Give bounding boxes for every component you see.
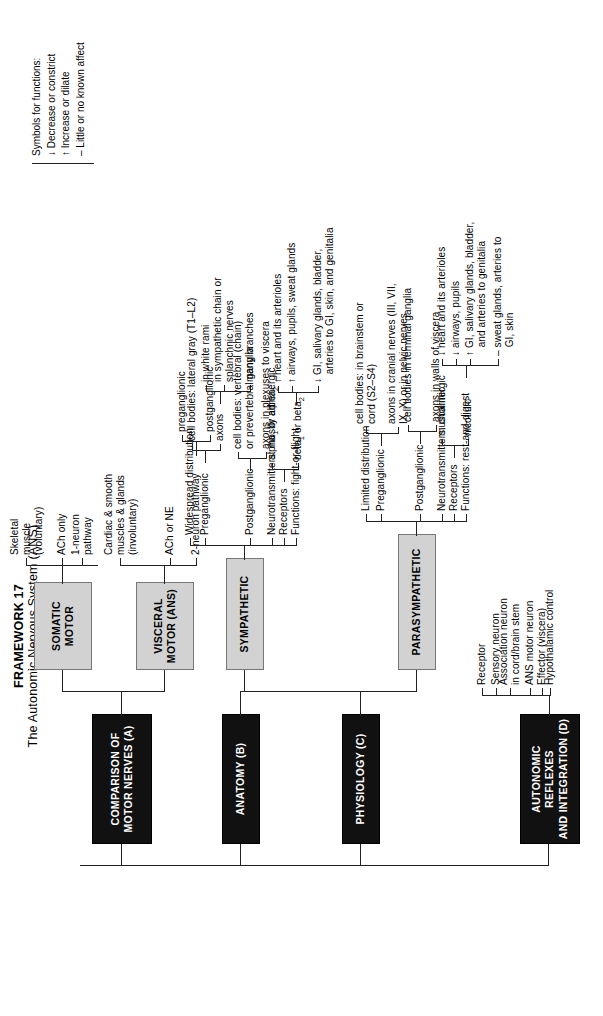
section-physiology[interactable]: PHYSIOLOGY (C) (342, 714, 380, 844)
section-anatomy-label: ANATOMY (B) (234, 743, 247, 816)
para-item-3: Postganglionic (414, 445, 426, 511)
symp-tick-6 (296, 538, 297, 546)
symp-item-2: Preganglionic (199, 473, 211, 535)
symp-item-6: Functions: fight-or-flight (290, 428, 302, 535)
somatic-item-2: ACh only (56, 514, 68, 555)
reflex-tick-6 (550, 688, 551, 696)
para-preg-tick-a (366, 427, 367, 434)
somatic-out-line (62, 566, 63, 584)
box-sympathetic-label: SYMPATHETIC (238, 576, 251, 653)
comparison-branch-visceral (164, 670, 165, 692)
box-parasympathetic[interactable]: PARASYMPATHETIC (398, 534, 436, 670)
somatic-tick-2 (62, 558, 63, 566)
legend: Symbols for functions: ↓ Decrease or con… (30, 42, 88, 156)
section-autonomic-reflexes[interactable]: AUTONOMIC REFLEXES AND INTEGRATION (D) (520, 714, 580, 844)
para-postg-spine (408, 431, 436, 432)
box-somatic-motor-label: SOMATIC MOTOR (50, 601, 76, 651)
symp-preg-spine (192, 450, 220, 451)
reflex-tick-3 (510, 688, 511, 696)
legend-item-decrease: ↓ Decrease or constrict (45, 42, 60, 156)
symp-tick-3 (250, 538, 251, 546)
symp-tick-4 (272, 538, 273, 546)
para-recept-line (454, 446, 455, 458)
symp-postg-line (250, 459, 251, 471)
somatic-tick-3 (82, 558, 83, 566)
symp-recept-line (284, 470, 285, 482)
symp-para-vertical (244, 691, 416, 692)
symp-tick-5 (284, 538, 285, 546)
para-fn-tick-1 (442, 359, 443, 366)
symp-item-5a: alpha1 or alpha2 (266, 387, 280, 460)
symp-fn-tick-3 (318, 386, 319, 393)
box-sympathetic[interactable]: SYMPATHETIC (226, 558, 264, 670)
para-item-5a: muscarinic (436, 387, 448, 436)
para-postg-tick-a (408, 425, 409, 432)
branch-sympathetic (244, 670, 245, 692)
legend-item-little: – Little or no known affect (74, 42, 89, 156)
spine-stub-physiology (360, 844, 361, 866)
physiology-out-line (360, 692, 361, 716)
para-item-6c: ↑ GI, salivary glands, bladder, and arte… (464, 222, 488, 356)
somatic-item-1: Skeletal muscle (voluntary) (9, 507, 46, 555)
para-tick-4 (442, 514, 443, 522)
symp-item-6a: ↑ heart and its arterioles (272, 274, 284, 383)
section-reflexes-label: AUTONOMIC REFLEXES AND INTEGRATION (D) (530, 715, 569, 843)
para-tick-6 (466, 514, 467, 522)
spine-stub-comparison (121, 844, 122, 866)
para-fn-tick-4 (498, 359, 499, 366)
symp-tick-2 (205, 538, 206, 546)
para-item-6d: – sweat glands, arteries to GI, skin (492, 237, 516, 356)
para-tick-1 (366, 514, 367, 522)
box-visceral-motor[interactable]: VISCERAL MOTOR (ANS) (136, 582, 194, 670)
symp-item-3a: cell bodies: vertebral (chain) or prever… (232, 321, 256, 449)
para-preg-tick-b (398, 427, 399, 434)
para-item-1: Limited distribution (360, 426, 372, 511)
para-recept-tick-a (442, 439, 443, 446)
diagram-page: FRAMEWORK 17 The Autonomic Nervous Syste… (0, 0, 603, 1016)
section-anatomy[interactable]: ANATOMY (B) (222, 714, 260, 844)
para-fn-line (466, 366, 467, 378)
comparison-branch-vertical (62, 691, 164, 692)
anatomy-out-line (240, 692, 241, 716)
symp-fn-spine (278, 392, 318, 393)
symp-item-1: Widespread distribution (184, 428, 196, 535)
symp-fn-tick-2 (292, 386, 293, 393)
visceral-sub-tick-2 (210, 435, 211, 442)
diagram-canvas: FRAMEWORK 17 The Autonomic Nervous Syste… (0, 0, 603, 1016)
para-tick-5 (454, 514, 455, 522)
comparison-branch-somatic (62, 670, 63, 692)
symp-item-2b1: in white rami (200, 325, 212, 382)
para-item-3a: cell bodies in terminal ganglia (402, 288, 414, 422)
para-item-5: Receptors (448, 465, 460, 511)
somatic-item-3: 1-neuron pathway (70, 514, 94, 555)
box-somatic-motor[interactable]: SOMATIC MOTOR (34, 582, 92, 670)
reflex-items-spine (482, 695, 550, 696)
reflex-item-6: Hypothalamic control (544, 590, 556, 685)
somatic-tick-1 (26, 558, 27, 566)
reflex-item-3: Association neuron in cord/brain stem (498, 598, 522, 685)
box-parasympathetic-label: PARASYMPATHETIC (410, 548, 423, 655)
symp-item-2b: axons (214, 414, 226, 441)
reflex-tick-4 (530, 688, 531, 696)
symp-item-6c: ↓ GI, salivary glands, bladder, arteries… (312, 227, 336, 383)
box-visceral-motor-label: VISCERAL MOTOR (ANS) (152, 589, 178, 663)
symp-fn-tick-1 (278, 386, 279, 393)
visceral-items-spine (120, 565, 196, 566)
section-physiology-label: PHYSIOLOGY (C) (354, 734, 367, 825)
symp-postg-tick-a (238, 452, 239, 459)
para-fn-tick-3 (470, 359, 471, 366)
legend-item-increase: ↑ Increase or dilate (59, 42, 74, 156)
visceral-tick-2 (170, 558, 171, 566)
visceral-tick-3 (196, 558, 197, 566)
visceral-out-line (164, 566, 165, 584)
sympathetic-out-line (244, 546, 245, 560)
section-comparison-of-motor-nerves[interactable]: COMPARISON OF MOTOR NERVES (A) (92, 714, 152, 844)
symp-item-2a: cell bodies: lateral gray (T1–L2) (186, 298, 198, 441)
spine-vertical (80, 865, 548, 866)
symp-item-5: Receptors (278, 489, 290, 535)
symp-postg-spine (238, 458, 266, 459)
para-item-6a: ↓ heart and its arterioles (436, 247, 448, 356)
legend-rule (32, 163, 94, 164)
symp-preg-tick-b (220, 444, 221, 451)
para-item-2a: cell bodies: in brainstem or cord (S2–S4… (354, 302, 378, 424)
